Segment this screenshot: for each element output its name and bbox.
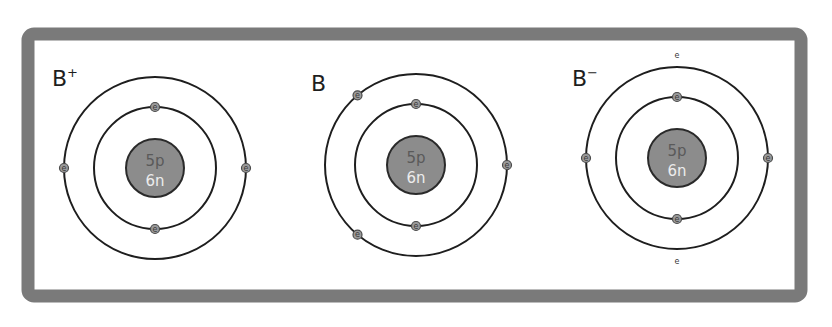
electron-symbol: e: [414, 100, 419, 109]
atom-charge: −: [587, 65, 598, 80]
electron-symbol: e: [584, 154, 589, 163]
atom-label: B: [311, 71, 326, 96]
electron: e: [353, 91, 362, 100]
electron-symbol: e: [355, 91, 360, 100]
proton-count: 5p: [667, 142, 686, 160]
electron-symbol: e: [355, 230, 360, 239]
proton-count: 5p: [406, 149, 425, 167]
electron: e: [60, 164, 69, 173]
electron: e: [151, 103, 160, 112]
electron: e: [412, 100, 421, 109]
electron-symbol: e: [675, 215, 680, 224]
atom-diagram: 5p6neeeeB+ 5p6neeeeeB 5p6neeeeeeB−: [0, 0, 832, 327]
neutron-count: 6n: [667, 162, 686, 180]
neutron-count: 6n: [406, 169, 425, 187]
atom-symbol: B: [572, 66, 587, 91]
atom-symbol: B: [52, 66, 67, 91]
electron: e: [764, 154, 773, 163]
proton-count: 5p: [145, 152, 164, 170]
electron: e: [503, 161, 512, 170]
electron-symbol: e: [62, 164, 67, 173]
electron: e: [242, 164, 251, 173]
neutron-count: 6n: [145, 172, 164, 190]
electron-symbol: e: [153, 225, 158, 234]
electron: e: [675, 257, 680, 266]
electron-symbol: e: [414, 222, 419, 231]
electron: e: [151, 225, 160, 234]
electron-symbol: e: [244, 164, 249, 173]
electron: e: [412, 222, 421, 231]
electron-symbol: e: [505, 161, 510, 170]
electron-symbol: e: [766, 154, 771, 163]
electron-symbol: e: [675, 93, 680, 102]
electron: e: [675, 51, 680, 60]
electron: e: [353, 230, 362, 239]
atom-charge: +: [67, 65, 78, 80]
electron: e: [673, 215, 682, 224]
electron: e: [582, 154, 591, 163]
electron: e: [673, 93, 682, 102]
electron-symbol: e: [675, 257, 680, 266]
electron-symbol: e: [153, 103, 158, 112]
electron-symbol: e: [675, 51, 680, 60]
atom-symbol: B: [311, 71, 326, 96]
